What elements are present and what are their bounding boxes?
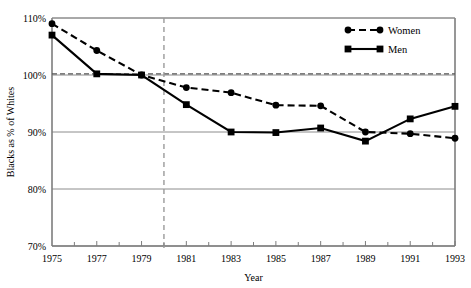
xtick-label-1975: 1975	[42, 253, 62, 264]
datapoint-men-1985	[272, 129, 279, 136]
datapoint-women-1989	[362, 129, 369, 136]
line-chart: 1975197719791981198319851987198919911993…	[0, 0, 471, 288]
datapoint-men-1993	[452, 103, 459, 110]
chart-container: 1975197719791981198319851987198919911993…	[0, 0, 471, 288]
x-axis-title: Year	[244, 272, 263, 283]
xtick-label-1991: 1991	[400, 253, 420, 264]
legend-marker-men-start	[345, 46, 352, 53]
legend-marker-women-end	[377, 27, 384, 34]
datapoint-men-1979	[138, 72, 145, 79]
xtick-label-1985: 1985	[266, 253, 286, 264]
xtick-label-1979: 1979	[132, 253, 152, 264]
datapoint-women-1991	[407, 130, 414, 137]
xtick-label-1989: 1989	[355, 253, 375, 264]
datapoint-women-1977	[93, 47, 100, 54]
xtick-label-1987: 1987	[311, 253, 331, 264]
datapoint-men-1989	[362, 138, 369, 145]
series-line-women	[52, 24, 455, 139]
datapoint-men-1977	[93, 70, 100, 77]
ytick-label-100%: 100%	[23, 70, 46, 81]
xtick-label-1983: 1983	[221, 253, 241, 264]
datapoint-men-1981	[183, 101, 190, 108]
datapoint-men-1991	[407, 115, 414, 122]
ytick-label-80%: 80%	[28, 184, 46, 195]
datapoint-women-1983	[228, 89, 235, 96]
datapoint-men-1987	[317, 125, 324, 132]
y-axis-title: Blacks as % of Whites	[5, 87, 16, 177]
datapoint-women-1987	[317, 102, 324, 109]
legend-label-men: Men	[388, 44, 408, 55]
xtick-label-1993: 1993	[445, 253, 465, 264]
legend-label-women: Women	[388, 25, 421, 36]
ytick-label-70%: 70%	[28, 241, 46, 252]
xtick-label-1981: 1981	[176, 253, 196, 264]
legend-marker-men-end	[377, 46, 384, 53]
datapoint-women-1975	[49, 20, 56, 27]
legend-marker-women-start	[345, 27, 352, 34]
ytick-label-90%: 90%	[28, 127, 46, 138]
datapoint-women-1993	[452, 135, 459, 142]
datapoint-women-1981	[183, 84, 190, 91]
ytick-label-110%: 110%	[23, 13, 46, 24]
datapoint-men-1975	[49, 32, 56, 39]
datapoint-men-1983	[228, 129, 235, 136]
datapoint-women-1985	[272, 102, 279, 109]
xtick-label-1977: 1977	[87, 253, 107, 264]
